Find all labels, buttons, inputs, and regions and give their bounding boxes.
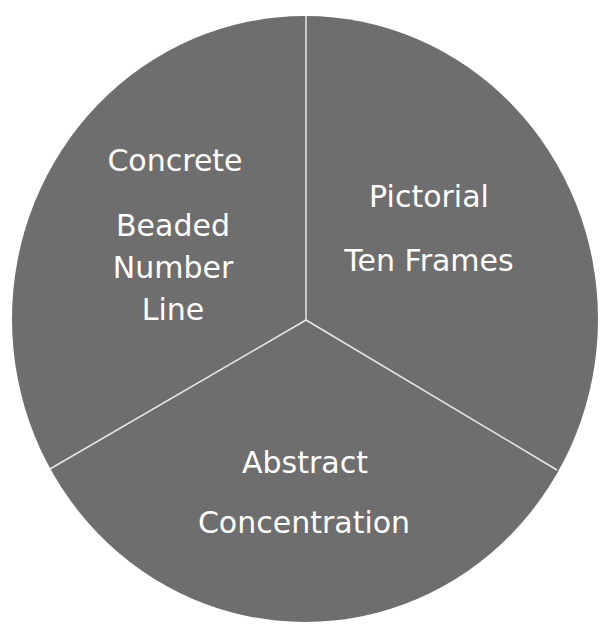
abstract-example-line-1: Concentration [198,508,410,538]
abstract-stage-text: Abstract [242,448,368,478]
concrete-stage-text: Concrete [107,146,242,176]
pictorial-stage-text: Pictorial [369,182,489,212]
sector-concrete-title: Concrete [107,146,242,176]
sector-pictorial-example: Ten Frames [344,246,513,276]
pictorial-example-line-1: Ten Frames [344,246,513,276]
cpa-circle-diagram [0,0,604,642]
sector-concrete-example: Beaded Number Line [113,205,234,331]
sector-pictorial-title: Pictorial [369,182,489,212]
concrete-example-line-2: Number [113,247,234,289]
sector-abstract-title: Abstract [242,448,368,478]
concrete-example-line-3: Line [113,289,234,331]
concrete-example-line-1: Beaded [113,205,234,247]
sector-abstract-example: Concentration [198,508,410,538]
